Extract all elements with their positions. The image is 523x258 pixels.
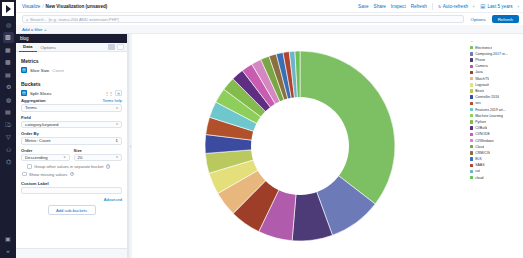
order-label-row: Order — [21, 148, 70, 153]
inspect-button[interactable]: Inspect — [391, 4, 406, 9]
nav-item-siem-icon[interactable]: ⚇ — [3, 144, 14, 155]
editor-and-vis: blog Data Options Metrics ▤ Slice Size — [16, 34, 523, 258]
group-other-checkbox[interactable] — [27, 164, 32, 169]
legend-swatch-icon — [470, 114, 473, 117]
nav-item-logs-icon[interactable]: ▤ — [3, 107, 14, 118]
tab-options[interactable]: Options — [37, 43, 60, 52]
panel-layout-icon[interactable] — [108, 44, 115, 50]
time-range-picker[interactable]: 🗓 Last 5 years — [480, 4, 513, 9]
order-by-select[interactable]: Metric: Count 1 — [21, 137, 122, 145]
nav-item-maps-icon[interactable]: ▤ — [3, 69, 14, 80]
custom-label-input[interactable] — [21, 187, 122, 195]
legend-item-label: SAAS — [475, 163, 484, 167]
field-label: Field — [21, 115, 31, 120]
legend-items: ElectronicsComputing 2017 re...PhoneCame… — [470, 45, 521, 181]
options-button[interactable]: Options — [467, 16, 488, 23]
group-other-checkbox-row[interactable]: Group other values in separate bucket ? — [21, 164, 122, 169]
legend-item-label: cloud — [475, 176, 483, 180]
remove-bucket-icon[interactable]: ✕ — [115, 90, 122, 96]
nav-item-apm-icon[interactable]: ⎄ — [3, 119, 14, 130]
tab-data[interactable]: Data — [19, 43, 37, 52]
donut-center-hole — [251, 97, 349, 195]
legend-item-label: Logstash — [475, 83, 489, 87]
query-refresh-button[interactable]: Refresh — [492, 15, 519, 23]
legend-item-label: Phone — [475, 58, 485, 62]
aggregation-field: Aggregation Terms help Terms ˅ — [21, 98, 122, 112]
nav-collapse-icon[interactable]: « — [3, 246, 14, 257]
share-button[interactable]: Share — [374, 4, 386, 9]
order-field: Order Descending ˅ — [21, 148, 70, 162]
nav-item-visualize-icon[interactable]: ▥ — [3, 32, 14, 43]
time-prev-icon[interactable]: ‹ — [473, 4, 474, 9]
legend-swatch-icon — [470, 139, 473, 142]
aggregation-select[interactable]: Terms ˅ — [21, 104, 122, 112]
panel-collapse-icon[interactable] — [117, 44, 124, 50]
legend-item-label: Beats — [475, 89, 484, 93]
legend-item-label: Features 2019 art... — [475, 108, 506, 112]
size-input[interactable]: 20 ˅ — [74, 154, 123, 162]
filter-bar: Add a filter + — [16, 25, 523, 34]
legend-item-label: CI/Build — [475, 126, 487, 130]
legend-swatch-icon — [470, 89, 473, 92]
show-missing-checkbox-row[interactable]: Show missing values ? — [21, 172, 122, 177]
kibana-logo-icon[interactable] — [2, 2, 14, 16]
nav-item-infrastructure-icon[interactable]: ◍ — [3, 94, 14, 105]
order-select[interactable]: Descending ˅ — [21, 154, 70, 162]
bucket-agg-row[interactable]: ▤ Split Slices ⋮⋮ ✕ — [21, 90, 122, 96]
bucket-agg-actions: ⋮⋮ ✕ — [105, 90, 122, 96]
auto-refresh-control[interactable]: ↻ Auto-refresh — [438, 4, 468, 9]
nav-item-dev-tools-icon[interactable]: ⌬ — [3, 157, 14, 168]
search-placeholder: Search... (e.g. status:200 AND extension… — [30, 17, 119, 22]
show-missing-checkbox[interactable] — [22, 172, 27, 177]
breadcrumb-root[interactable]: Visualize — [22, 4, 40, 9]
nav-item-canvas-icon[interactable]: ▩ — [3, 57, 14, 68]
field-label-row: Field — [21, 115, 122, 120]
legend-item-label: cwl — [475, 169, 480, 173]
metric-agg-value: Count — [52, 68, 63, 73]
refresh-button[interactable]: Refresh — [411, 4, 427, 9]
legend-item-label: Camera — [475, 64, 487, 68]
legend-swatch-icon — [470, 65, 473, 68]
calendar-icon: 🗓 — [480, 4, 486, 9]
add-sub-buckets-button[interactable]: Add sub-buckets — [48, 205, 96, 215]
advanced-toggle[interactable]: Advanced — [104, 197, 122, 202]
donut-chart — [202, 48, 398, 244]
buckets-heading: Buckets — [21, 81, 122, 87]
app-header: Visualize / New Visualization (unsaved) … — [16, 0, 523, 13]
main-column: Visualize / New Visualization (unsaved) … — [16, 0, 523, 258]
order-by-metric-number: 1 — [116, 138, 118, 143]
metric-agg-label: Slice Size — [30, 68, 49, 73]
time-next-icon[interactable]: › — [518, 4, 519, 9]
legend-item[interactable]: cloud — [470, 175, 521, 181]
save-button[interactable]: Save — [358, 4, 368, 9]
metric-agg-row[interactable]: ▤ Slice Size Count — [21, 67, 122, 73]
nav-item-uptime-icon[interactable]: ▽ — [3, 132, 14, 143]
size-label-row: Size — [74, 148, 123, 153]
order-and-size-row: Order Descending ˅ Size — [21, 148, 122, 162]
field-select[interactable]: category.keyword ˅ — [21, 121, 122, 129]
nav-item-machine-learning-icon[interactable]: ⚙ — [3, 82, 14, 93]
legend-swatch-icon — [470, 157, 473, 160]
header-actions: Save Share Inspect Refresh ↻ Auto-refres… — [358, 3, 519, 10]
nav-item-dashboard-icon[interactable]: ▦ — [3, 44, 14, 55]
query-bar: ⌕ Search... (e.g. status:200 AND extensi… — [16, 13, 523, 25]
legend-item-label: Controller 2016 — [475, 95, 499, 99]
legend-swatch-icon — [470, 145, 473, 148]
nav-item-discover-icon[interactable]: ◎ — [3, 19, 14, 30]
bucket-agg-icon: ▤ — [21, 90, 27, 96]
add-filter-button[interactable]: Add a filter — [22, 27, 43, 32]
nav-item-management-icon[interactable]: ▣ — [3, 233, 14, 244]
legend-swatch-icon — [470, 102, 473, 105]
drag-handle-icon[interactable]: ⋮⋮ — [105, 91, 113, 96]
aggregation-help-link[interactable]: Terms help — [102, 98, 122, 103]
chart-legend: ⌄ ElectronicsComputing 2017 re...PhoneCa… — [467, 34, 523, 258]
group-other-help-icon[interactable]: ? — [106, 164, 111, 169]
legend-item-label: WatchTV — [475, 77, 489, 81]
legend-toggle-icon[interactable]: ⌄ — [470, 38, 473, 43]
order-by-value: Metric: Count — [25, 138, 51, 143]
kibana-logo-mark — [6, 5, 11, 13]
show-missing-help-icon[interactable]: ? — [70, 172, 75, 177]
kibana-visualize-app: ◎ ▥ ▦ ▩ ▤ ⚙ ◍ ▤ ⎄ ▽ ⚇ ⌬ ▣ « Visualize / … — [0, 0, 523, 258]
search-input[interactable]: ⌕ Search... (e.g. status:200 AND extensi… — [22, 15, 464, 23]
editor-tab-icons — [108, 44, 127, 50]
